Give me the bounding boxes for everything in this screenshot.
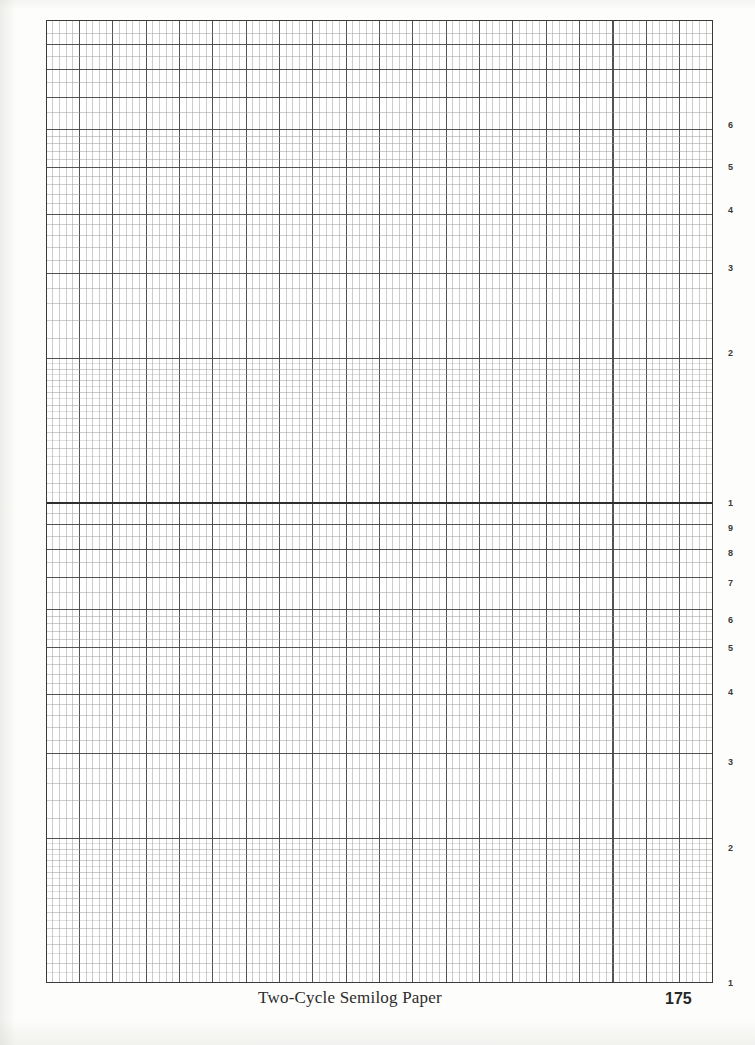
page-caption: Two-Cycle Semilog Paper [0, 988, 700, 1008]
axis-tick-label: 2 [728, 349, 733, 358]
axis-tick-label: 3 [728, 758, 733, 767]
axis-tick-label: 4 [728, 688, 733, 697]
axis-tick-label: 6 [728, 121, 733, 130]
axis-tick-label: 8 [728, 549, 733, 558]
axis-tick-label: 1 [728, 979, 733, 988]
semilog-grid [46, 20, 713, 983]
page-number: 175 [665, 990, 692, 1008]
graph-grid-area [46, 20, 713, 983]
log-axis-label-column: 654321987654321 [718, 0, 755, 1045]
semilog-paper-page: 654321987654321 Two-Cycle Semilog Paper … [0, 0, 755, 1045]
axis-tick-label: 4 [728, 206, 733, 215]
axis-tick-label: 3 [728, 264, 733, 273]
axis-tick-label: 9 [728, 524, 733, 533]
axis-tick-label: 2 [728, 844, 733, 853]
axis-tick-label: 7 [728, 579, 733, 588]
axis-tick-label: 5 [728, 644, 733, 653]
axis-tick-label: 5 [728, 163, 733, 172]
axis-tick-label: 6 [728, 616, 733, 625]
axis-tick-label: 1 [728, 499, 733, 508]
